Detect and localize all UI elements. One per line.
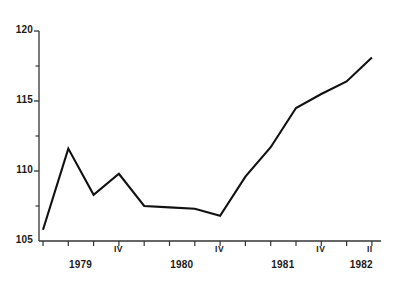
x-year-label-1981: 1981 xyxy=(271,259,294,270)
axis-lines xyxy=(39,31,381,241)
x-quarter-label-1979-iv: IV xyxy=(114,244,123,254)
x-quarter-label-1981-iv: IV xyxy=(316,244,325,254)
x-year-label-1980: 1980 xyxy=(170,259,193,270)
data-series-line xyxy=(43,58,372,230)
chart-container: 120 115 110 105 IV IV IV II 1979 1980 19… xyxy=(0,0,393,283)
y-tick-label-110: 110 xyxy=(3,164,33,175)
line-chart-plot xyxy=(0,0,393,283)
y-tick-label-105: 105 xyxy=(3,234,33,245)
y-axis-ticks xyxy=(34,31,39,206)
x-quarter-label-1982-ii: II xyxy=(367,244,373,254)
y-tick-label-115: 115 xyxy=(3,94,33,105)
y-tick-label-120: 120 xyxy=(3,24,33,35)
x-quarter-label-1980-iv: IV xyxy=(215,244,224,254)
x-year-label-1979: 1979 xyxy=(69,259,92,270)
x-year-label-1982: 1982 xyxy=(350,259,373,270)
